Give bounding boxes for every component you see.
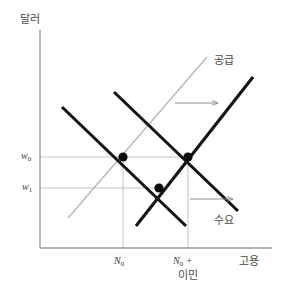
supply-curve-shifted: [136, 77, 253, 226]
y-tick-w0-sub: 0: [28, 155, 32, 163]
economics-diagram: 달러 고용 공급 수요 w0 w1 N0 N0 + 이민: [0, 0, 292, 298]
x-tick-n0-main: N: [114, 255, 121, 266]
axes: [40, 30, 272, 248]
demand-curve-shifted: [114, 92, 238, 211]
y-tick-label-w0: w0: [21, 151, 31, 163]
x-tick-label-n0: N0: [114, 256, 124, 268]
y-tick-label-w1: w1: [22, 182, 32, 194]
y-tick-w1-sub: 1: [29, 186, 33, 194]
equilibrium-point-e0: [118, 152, 127, 161]
x-tick-n0-sub: 0: [121, 260, 125, 268]
x-tick-label-immigration-line2: 이민: [178, 270, 198, 281]
x-tick-n0imm-suffix: +: [183, 255, 192, 266]
equilibrium-point-e1: [154, 183, 163, 192]
supply-curve-label: 공급: [214, 55, 234, 66]
x-tick-n0imm-main: N: [173, 255, 180, 266]
y-axis-label: 달러: [20, 14, 40, 25]
x-tick-label-n0-immigration: N0 +: [173, 256, 192, 268]
demand-curve-initial: [62, 107, 186, 226]
y-tick-w0-main: w: [21, 150, 28, 161]
demand-curve-label: 수요: [214, 215, 234, 226]
x-axis-label: 고용: [239, 256, 259, 267]
supply-curve-original: [68, 57, 207, 218]
diagram-canvas: [0, 0, 292, 298]
guide-lines: [40, 157, 188, 248]
equilibrium-point-e2: [183, 152, 192, 161]
y-tick-w1-main: w: [22, 181, 29, 192]
